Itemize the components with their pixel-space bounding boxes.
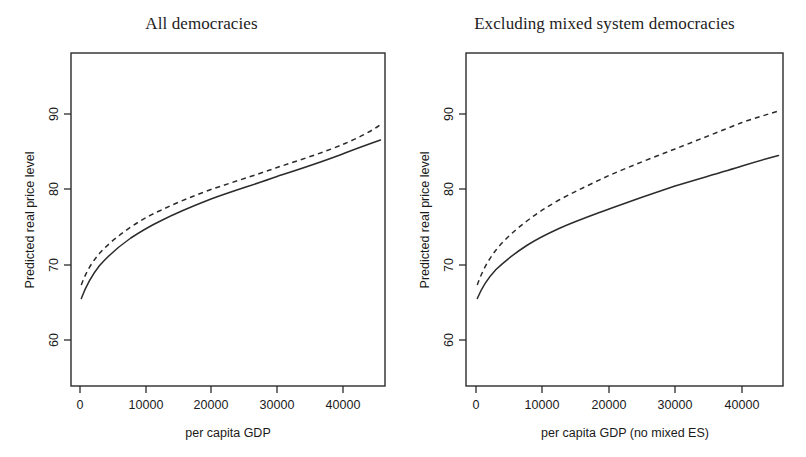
- y-tick-label-left-80: 80: [47, 182, 61, 196]
- y-tick-label-left-60: 60: [47, 333, 61, 347]
- x-ticks-right: [476, 386, 742, 393]
- curve-dashed-left: [81, 125, 380, 286]
- plot-box-left: [71, 53, 385, 386]
- curve-solid-right: [477, 156, 778, 299]
- y-tick-label-right-90: 90: [442, 107, 456, 121]
- x-tick-label-left-1: 10000: [129, 398, 164, 412]
- two-panel-figure: All democracies 0 10000 20000 30000 4000…: [0, 0, 806, 457]
- x-tick-label-right-4: 40000: [725, 398, 760, 412]
- x-tick-label-right-0: 0: [473, 398, 480, 412]
- x-tick-label-left-2: 20000: [194, 398, 229, 412]
- y-tick-label-right-60: 60: [442, 333, 456, 347]
- y-axis-title-left: Predicted real price level: [23, 152, 37, 289]
- curve-dashed-right: [477, 111, 778, 285]
- x-axis-title-left: per capita GDP: [185, 426, 270, 440]
- x-tick-label-left-4: 40000: [326, 398, 361, 412]
- panel-excluding-mixed: Excluding mixed system democracies 0 100…: [403, 0, 806, 457]
- x-tick-label-right-1: 10000: [525, 398, 560, 412]
- y-ticks-right: [459, 114, 466, 340]
- x-tick-label-right-2: 20000: [592, 398, 627, 412]
- plot-box-right: [466, 53, 783, 386]
- y-tick-label-left-70: 70: [47, 258, 61, 272]
- y-tick-label-left-90: 90: [47, 107, 61, 121]
- x-ticks-left: [80, 386, 343, 393]
- y-tick-label-right-70: 70: [442, 258, 456, 272]
- y-ticks-left: [64, 114, 71, 340]
- plot-right: 0 10000 20000 30000 40000 60 70 80 90 pe…: [403, 0, 806, 457]
- plot-left: 0 10000 20000 30000 40000 60 70 80 90 pe…: [0, 0, 403, 457]
- x-tick-label-right-3: 30000: [658, 398, 693, 412]
- x-tick-label-left-3: 30000: [260, 398, 295, 412]
- y-tick-label-right-80: 80: [442, 182, 456, 196]
- panel-all-democracies: All democracies 0 10000 20000 30000 4000…: [0, 0, 403, 457]
- curve-solid-left: [81, 140, 380, 299]
- x-axis-title-right: per capita GDP (no mixed ES): [541, 426, 709, 440]
- x-tick-label-left-0: 0: [77, 398, 84, 412]
- y-axis-title-right: Predicted real price level: [418, 152, 432, 289]
